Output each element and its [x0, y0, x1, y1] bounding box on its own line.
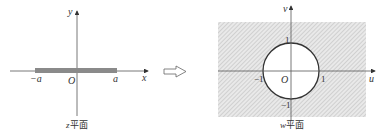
z-plane: [10, 11, 148, 116]
y-axis-label: y: [68, 7, 72, 17]
tick-v-pos: 1: [285, 36, 290, 45]
tick-u-neg: −1: [254, 75, 264, 84]
origin-label-z: O: [68, 76, 75, 86]
caption-text: 平面: [70, 120, 88, 130]
slit-segment: [35, 68, 117, 73]
w-plane: [218, 6, 375, 121]
mapping-arrow-icon: [164, 66, 186, 77]
v-axis-label: v: [283, 4, 287, 14]
caption-text: 平面: [286, 120, 304, 130]
w-plane-caption: w平面: [280, 121, 304, 130]
tick-u-pos: 1: [321, 75, 326, 84]
origin-label-w: O: [281, 75, 288, 85]
u-axis-label: u: [369, 74, 374, 84]
diagram-canvas: [0, 0, 380, 137]
pos-a-label: a: [113, 74, 118, 84]
neg-a-label: −a: [30, 74, 42, 84]
x-axis-label: x: [142, 73, 146, 83]
z-plane-caption: z平面: [66, 121, 88, 130]
tick-v-neg: −1: [281, 101, 291, 110]
